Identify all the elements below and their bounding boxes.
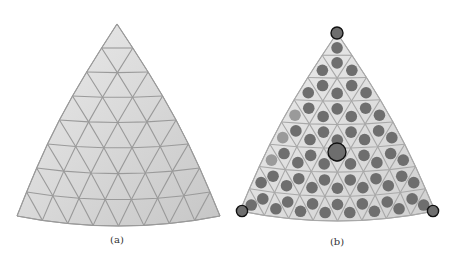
right-corner-marker	[427, 205, 438, 216]
figure-canvas	[0, 0, 454, 262]
apex-marker	[331, 27, 343, 39]
center-marker	[328, 143, 346, 161]
caption-b: (b)	[330, 236, 344, 247]
panel-b	[236, 27, 438, 221]
left-corner-marker	[236, 205, 247, 216]
caption-a: (a)	[110, 234, 124, 245]
spherical-triangle-a	[17, 24, 220, 226]
panel-a	[17, 24, 220, 226]
